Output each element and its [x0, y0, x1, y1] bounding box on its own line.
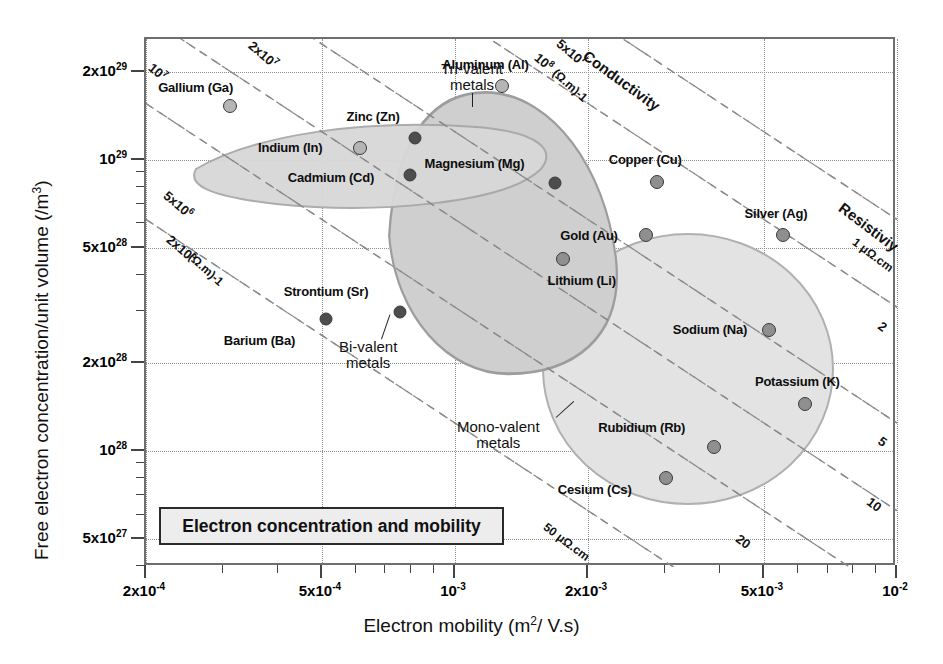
group-label-tri-valent-l1: Tri-valent: [441, 61, 503, 77]
data-point-zn[interactable]: [408, 131, 421, 144]
data-point-in[interactable]: [353, 141, 367, 155]
point-label-cd: Cadmium (Cd): [288, 170, 374, 185]
y-tick-label: 2x1028: [0, 352, 127, 370]
point-label-cs: Cesium (Cs): [558, 482, 632, 497]
group-label-tri-valent-l2: metals: [441, 77, 503, 93]
tick-y: [136, 514, 144, 515]
chart-figure: Free electron concentration/unit volume …: [0, 0, 943, 664]
tick-y: [136, 203, 144, 204]
point-label-rb: Rubidium (Rb): [598, 420, 685, 435]
data-point-au[interactable]: [639, 228, 653, 242]
leader-line-tri-valent: [472, 93, 473, 107]
data-point-ba[interactable]: [319, 312, 332, 325]
y-tick-label: 1029: [0, 149, 127, 167]
x-tick-label: 2x10-4: [123, 581, 165, 599]
point-label-mg: Magnesium (Mg): [425, 156, 525, 171]
point-label-au: Gold (Au): [560, 228, 617, 243]
point-label-cu: Copper (Cu): [609, 152, 682, 167]
y-tick-label: 5x1027: [0, 528, 127, 546]
point-label-ag: Silver (Ag): [745, 206, 808, 221]
tick-y: [136, 310, 144, 311]
x-tick-label: 5x10-3: [741, 581, 783, 599]
x-tick-label: 10-2: [882, 581, 908, 599]
iso-line: [146, 39, 897, 307]
x-axis-title: Electron mobility (m2/ V.s): [0, 614, 943, 637]
point-label-in: Indium (In): [258, 140, 322, 155]
point-label-ba: Barium (Ba): [224, 333, 295, 348]
x-tick-label: 5x10-4: [299, 581, 341, 599]
data-point-cs[interactable]: [659, 471, 673, 485]
tick-y: [136, 477, 144, 478]
group-label-mono-valent-l1: Mono-valent: [457, 419, 540, 435]
data-point-ag[interactable]: [776, 228, 790, 242]
data-point-na[interactable]: [762, 323, 776, 337]
chart-title: Electron concentration and mobility: [182, 516, 481, 537]
point-label-sr: Strontium (Sr): [284, 284, 369, 299]
tick-y-major: [131, 158, 144, 160]
y-tick-label: 5x1028: [0, 237, 127, 255]
chart-title-box: Electron concentration and mobility: [159, 507, 504, 545]
tick-y: [136, 171, 144, 172]
x-tick-label: 10-3: [440, 581, 466, 599]
tick-y-major: [131, 361, 144, 363]
y-tick-label: 1028: [0, 440, 127, 458]
tick-y-major: [131, 537, 144, 539]
point-label-k: Potassium (K): [755, 374, 840, 389]
data-point-ga[interactable]: [223, 99, 237, 113]
group-label-bi-valent: Bi-valent metals: [339, 339, 397, 371]
data-point-mg[interactable]: [548, 177, 561, 190]
point-label-zn: Zinc (Zn): [347, 109, 400, 124]
point-label-na: Sodium (Na): [673, 322, 747, 337]
gridline-vertical: [897, 39, 898, 563]
tick-y-major: [131, 70, 144, 72]
iso-lines: [146, 39, 897, 567]
tick-y: [136, 186, 144, 187]
point-label-ga: Gallium (Ga): [158, 80, 233, 95]
tick-y: [136, 462, 144, 463]
bottom-edge-strip: [0, 655, 943, 664]
plot-area: Gallium (Ga)Indium (In)Aluminum (Al)Zinc…: [144, 37, 895, 565]
point-label-li: Lithium (Li): [547, 273, 615, 288]
tick-y: [136, 565, 144, 566]
data-point-cd[interactable]: [403, 168, 416, 181]
tick-y: [136, 494, 144, 495]
iso-line: [146, 39, 897, 307]
tick-y-major: [131, 449, 144, 451]
group-label-mono-valent-l2: metals: [457, 435, 540, 451]
x-tick-label: 2x10-3: [565, 581, 607, 599]
data-point-li[interactable]: [556, 252, 570, 266]
data-point-cu[interactable]: [650, 175, 664, 189]
data-point-k[interactable]: [798, 397, 812, 411]
group-label-bi-valent-l2: metals: [339, 355, 397, 371]
data-point-rb[interactable]: [707, 440, 721, 454]
tick-y: [136, 274, 144, 275]
group-label-tri-valent: Tri-valent metals: [441, 61, 503, 93]
y-tick-label: 2x1029: [0, 61, 127, 79]
tick-y-major: [131, 246, 144, 248]
group-label-mono-valent: Mono-valent metals: [457, 419, 540, 451]
tick-y: [136, 222, 144, 223]
x-axis-title-text: Electron mobility (m2/ V.s): [363, 615, 579, 636]
